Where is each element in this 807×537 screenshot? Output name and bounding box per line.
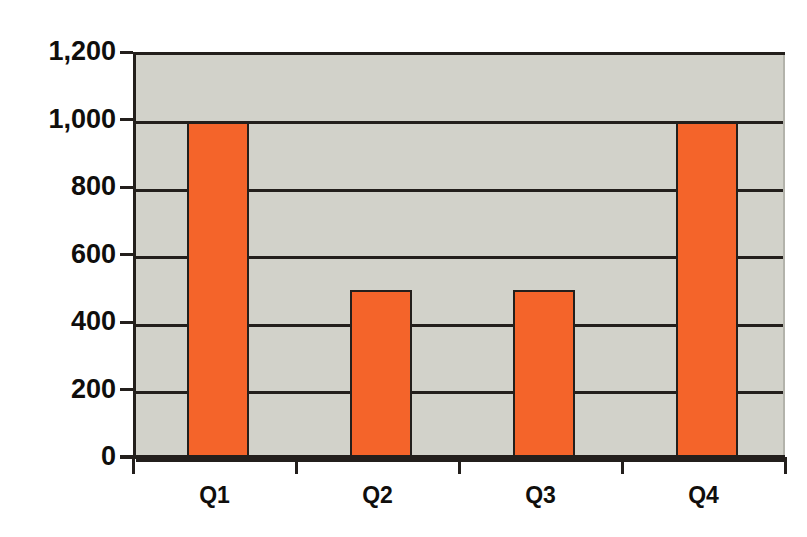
x-axis-label-q3: Q3 — [459, 484, 622, 507]
x-tick-2 — [458, 457, 461, 474]
bar-q3 — [513, 290, 575, 460]
x-tick-3 — [621, 457, 624, 474]
y-axis-label-1000: 1,000 — [48, 106, 116, 133]
y-tick-400 — [120, 321, 133, 324]
y-axis-label-400: 400 — [71, 308, 116, 335]
x-axis-label-q1: Q1 — [133, 484, 296, 507]
y-axis-label-600: 600 — [71, 241, 116, 268]
y-axis-label-200: 200 — [71, 376, 116, 403]
x-tick-4 — [784, 457, 787, 474]
y-axis-label-1200: 1,200 — [48, 38, 116, 65]
plot-area — [133, 52, 785, 457]
y-axis-label-0: 0 — [101, 443, 116, 470]
bar-chart-figure: 1,2001,0008006004002000 Q1Q2Q3Q4 — [0, 0, 807, 537]
y-tick-600 — [120, 253, 133, 256]
x-tick-1 — [295, 457, 298, 474]
x-tick-0 — [132, 457, 135, 474]
y-tick-1000 — [120, 118, 133, 121]
bar-q1 — [187, 122, 249, 461]
y-tick-1200 — [120, 51, 133, 54]
bar-q4 — [676, 122, 738, 461]
y-tick-200 — [120, 388, 133, 391]
y-tick-800 — [120, 186, 133, 189]
bar-q2 — [350, 290, 412, 460]
chart-title — [0, 0, 807, 5]
y-axis-label-800: 800 — [71, 173, 116, 200]
x-axis-label-q2: Q2 — [296, 484, 459, 507]
x-axis-line — [120, 455, 785, 459]
x-axis-label-q4: Q4 — [622, 484, 785, 507]
